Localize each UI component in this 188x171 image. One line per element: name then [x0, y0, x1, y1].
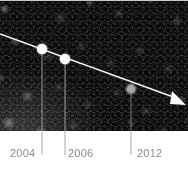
tick-label-2004: 2004: [10, 147, 35, 159]
tick-label-2006: 2006: [68, 147, 93, 159]
data-point-2004: [37, 44, 47, 54]
trend-arrowhead-icon: [170, 91, 186, 105]
plot-graphics: [0, 1, 188, 131]
tick-label-2012: 2012: [137, 147, 162, 159]
declining-trend-chart: 2004 2006 2012: [0, 0, 188, 171]
plot-panel: [0, 0, 188, 131]
x-axis-strip: 2004 2006 2012: [0, 131, 188, 171]
trend-line: [0, 34, 176, 98]
drop-lines: [42, 49, 131, 131]
data-point-markers: [36, 43, 137, 95]
data-point-2012: [127, 85, 136, 94]
data-point-2006: [60, 54, 70, 64]
